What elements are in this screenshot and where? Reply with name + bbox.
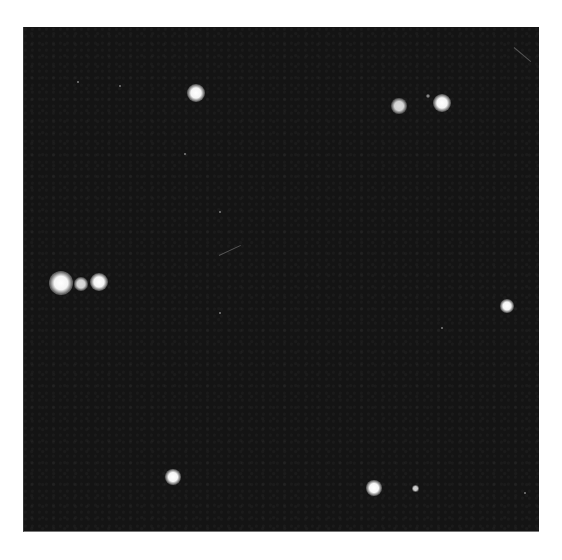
diffraction-spot [366,480,382,496]
faint-dot [524,492,526,494]
faint-dot [119,85,121,87]
diffraction-spot [74,277,88,291]
diffraction-spot [500,299,514,313]
diffraction-spot [90,273,108,291]
streak [514,47,531,62]
diffraction-spot [49,271,73,295]
faint-dot [184,153,186,155]
diffraction-spot [187,84,205,102]
diffraction-spot [426,94,430,98]
photographic-plate [23,27,539,532]
faint-dot [77,81,79,83]
diffraction-spot [433,94,451,112]
faint-dot [441,327,443,329]
diffraction-spot [412,485,419,492]
diffraction-spot [391,98,407,114]
diffraction-spot [165,469,181,485]
faint-dot [219,312,221,314]
streak [219,245,241,256]
faint-dot [219,211,221,213]
